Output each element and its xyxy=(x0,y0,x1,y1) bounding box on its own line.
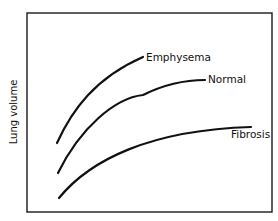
curve-normal xyxy=(58,80,205,173)
series-label-emphysema: Emphysema xyxy=(146,51,211,63)
y-axis-label: Lung volume xyxy=(8,80,19,145)
series-label-fibrosis: Fibrosis xyxy=(231,128,270,140)
curve-fibrosis xyxy=(59,127,251,198)
curve-emphysema xyxy=(57,57,143,143)
series-group: EmphysemaNormalFibrosis xyxy=(57,51,270,198)
chart: Lung volume EmphysemaNormalFibrosis xyxy=(0,0,278,221)
series-label-normal: Normal xyxy=(208,73,246,85)
plot-frame xyxy=(27,13,272,212)
